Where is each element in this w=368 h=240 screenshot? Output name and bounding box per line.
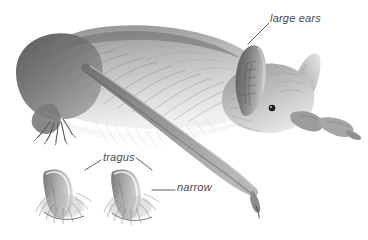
illustration-canvas — [0, 0, 368, 240]
eye-highlight — [270, 106, 272, 108]
label-narrow: narrow — [177, 181, 212, 193]
eye — [269, 105, 276, 112]
label-large-ears: large ears — [270, 12, 321, 24]
label-tragus: tragus — [103, 151, 135, 163]
bat-illustration-figure: large ears tragus narrow — [0, 0, 368, 240]
